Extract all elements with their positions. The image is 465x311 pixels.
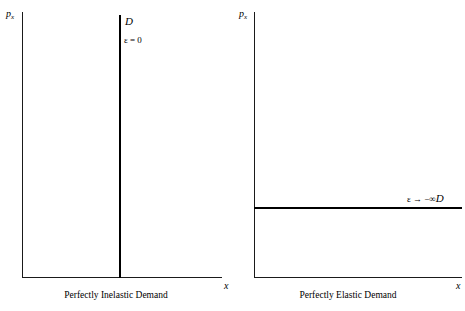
chart-caption: Perfectly Elastic Demand [232, 291, 464, 301]
demand-curve-label: D [125, 16, 133, 27]
elasticity-annotation: ε → −∞D [407, 193, 444, 204]
y-axis-label-subscript: x [11, 13, 14, 21]
y-axis [22, 12, 23, 278]
chart-perfectly-inelastic-demand: px x D ε = 0 Perfectly Inelastic Demand [0, 0, 232, 311]
x-axis-label: x [456, 281, 460, 291]
elasticity-annotation-text: ε → −∞ [407, 194, 436, 204]
x-axis [22, 277, 222, 278]
y-axis [254, 12, 255, 278]
demand-curve-label: D [436, 192, 444, 204]
x-axis [254, 277, 462, 278]
demand-curve-horizontal [254, 207, 462, 209]
chart-caption: Perfectly Inelastic Demand [0, 291, 232, 301]
demand-elasticity-figure: px x D ε = 0 Perfectly Inelastic Demand … [0, 0, 465, 311]
y-axis-label-subscript: x [244, 13, 247, 21]
chart-perfectly-elastic-demand [232, 0, 464, 311]
x-axis-label: x [224, 281, 228, 291]
elasticity-annotation: ε = 0 [124, 36, 142, 45]
y-axis-label: px [239, 9, 247, 21]
demand-curve-vertical [119, 15, 121, 278]
y-axis-label: px [6, 9, 14, 21]
